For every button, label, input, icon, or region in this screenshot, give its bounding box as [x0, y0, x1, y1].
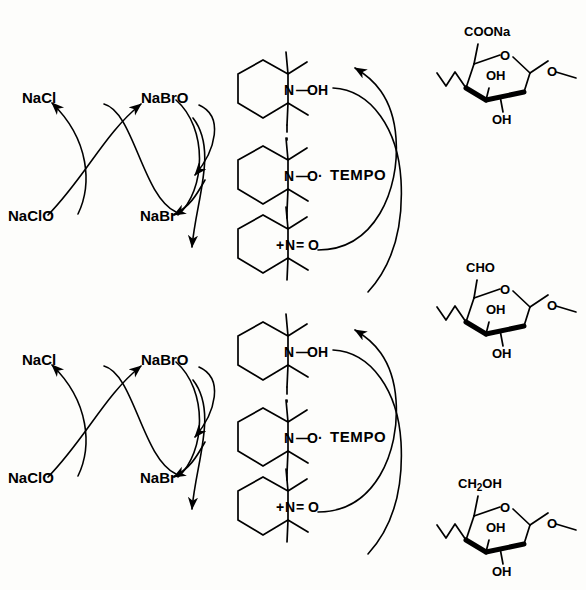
middle-sugar-ring-oxygen: O	[500, 282, 510, 297]
upper-oxoammonium-n-label: N	[285, 237, 295, 253]
middle-substrate-aldehyde: CHO O OH OH O	[437, 260, 576, 361]
upper-sugar-ring-oxygen: O	[500, 48, 510, 63]
lower-nabro-label: NaBrO	[141, 351, 189, 368]
lower-bromine-loop	[104, 362, 200, 477]
lower-tempo-label: TEMPO	[330, 428, 386, 445]
upper-nitroxyl-n-label: N	[284, 168, 294, 184]
lower-substrate-primary-alcohol: CH2OH O OH OH O	[437, 476, 576, 579]
upper-oxoammonium-o-label: O	[308, 237, 319, 253]
lower-naclo-label: NaClO	[8, 469, 54, 486]
upper-sugar-oh-c3: OH	[492, 112, 512, 127]
lower-oxidant-crossing-arcs	[48, 365, 141, 477]
upper-sugar-c6-coona: COONa	[464, 24, 511, 39]
upper-hydroxylamine-n-label: N	[284, 82, 294, 98]
upper-bromine-loop	[104, 100, 200, 215]
upper-nabr-label: NaBr	[140, 207, 176, 224]
lower-oxoammonium-bond: =	[296, 499, 304, 515]
upper-nacl-label: NaCl	[22, 89, 56, 106]
lower-nitroxyl-n-label: N	[284, 430, 294, 446]
upper-nabro-label: NaBrO	[141, 89, 189, 106]
upper-naclo-label: NaClO	[8, 207, 54, 224]
lower-hydroxylamine-o-label: OH	[307, 344, 328, 360]
upper-hydroxylamine-o-label: OH	[307, 82, 328, 98]
lower-nacl-label: NaCl	[22, 351, 56, 368]
lower-nabr-label: NaBr	[140, 469, 176, 486]
middle-sugar-glycosidic-oxygen: O	[547, 298, 557, 313]
upper-sugar-oh-c2: OH	[486, 68, 506, 83]
middle-sugar-oh-c2: OH	[486, 302, 506, 317]
upper-sugar-glycosidic-oxygen: O	[547, 64, 557, 79]
lower-sugar-oh-c3: OH	[492, 564, 512, 579]
lower-oxoammonium-n-label: N	[285, 499, 295, 515]
lower-oxoammonium-o-label: O	[308, 499, 319, 515]
reaction-scheme-canvas: N — OH N — O· + N = O NaCl NaClO NaBrO N…	[0, 0, 586, 590]
middle-sugar-c6-cho: CHO	[466, 260, 495, 275]
lower-nitroxyl-o-label: O·	[307, 430, 323, 446]
upper-oxidant-crossing-arcs	[48, 103, 141, 215]
lower-sugar-glycosidic-oxygen: O	[547, 516, 557, 531]
lower-hydroxylamine-n-label: N	[284, 344, 294, 360]
upper-tempo-label: TEMPO	[330, 166, 386, 183]
upper-substrate-uronate: COONa O OH OH O	[437, 24, 576, 127]
lower-sugar-oh-c2: OH	[486, 520, 506, 535]
upper-oxoammonium-bond: =	[296, 237, 304, 253]
upper-nitroxyl-o-label: O·	[307, 168, 323, 184]
lower-sugar-ring-oxygen: O	[500, 500, 510, 515]
upper-oxoammonium-charge: +	[276, 237, 284, 253]
middle-sugar-oh-c3: OH	[492, 346, 512, 361]
lower-sugar-c6-ch2oh: CH2OH	[458, 476, 502, 493]
lower-oxoammonium-charge: +	[276, 499, 284, 515]
